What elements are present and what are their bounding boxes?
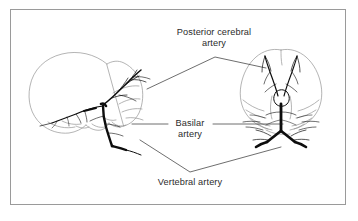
label-basilar-artery: Basilar artery: [176, 118, 205, 140]
figure-root: Posterior cerebral artery Basilar artery…: [0, 0, 358, 221]
label-posterior-cerebral-line2: artery: [177, 38, 251, 49]
label-basilar-line1: Basilar: [176, 118, 205, 129]
leader-posterior-cerebral: [147, 57, 266, 89]
ap-arteries: [243, 56, 319, 147]
label-vertebral-line1: Vertebral artery: [158, 177, 222, 188]
lateral-arteries: [40, 70, 150, 155]
label-vertebral-artery: Vertebral artery: [158, 177, 222, 188]
label-posterior-cerebral-artery: Posterior cerebral artery: [177, 27, 251, 49]
leader-lines: [132, 57, 283, 172]
lateral-brain-outline: [29, 52, 143, 133]
ap-view-drawing: [240, 49, 322, 147]
label-posterior-cerebral-line1: Posterior cerebral: [177, 27, 251, 38]
label-basilar-line2: artery: [176, 129, 205, 140]
lateral-view-drawing: [29, 52, 150, 155]
